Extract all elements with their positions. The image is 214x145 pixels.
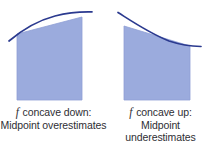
shaded-region-concave-down xyxy=(17,17,82,100)
caption-line2-concave-up: Midpoint underestimates xyxy=(107,120,214,144)
panel-concave-up: f concave up: Midpoint underestimates xyxy=(107,0,214,145)
concave-down-graphic xyxy=(0,0,107,105)
caption-line1-text: concave up: xyxy=(133,106,191,118)
concave-up-graphic xyxy=(107,0,214,105)
figure-root: f concave down: Midpoint overestimates f… xyxy=(0,0,214,145)
caption-line1-concave-down: f concave down: xyxy=(0,106,107,119)
caption-line1-concave-up: f concave up: xyxy=(107,106,214,119)
caption-line2-concave-down: Midpoint overestimates xyxy=(0,120,107,132)
shaded-region-concave-up xyxy=(124,26,190,100)
panel-concave-down: f concave down: Midpoint overestimates xyxy=(0,0,107,145)
caption-line1-text: concave down: xyxy=(20,106,92,118)
